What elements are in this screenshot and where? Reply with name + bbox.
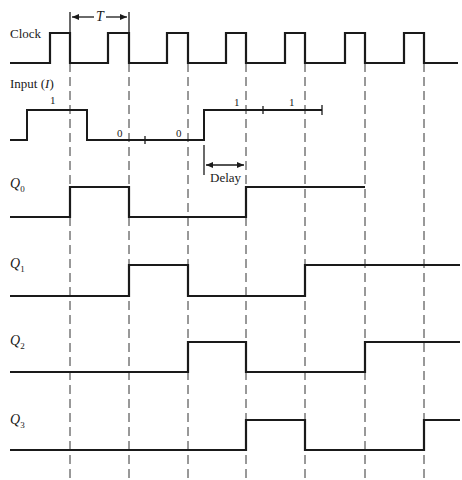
bit-value: 0 <box>117 127 123 139</box>
bit-value: 1 <box>50 94 56 106</box>
clock-edge-dashed-lines <box>70 63 424 478</box>
clock-label: Clock <box>10 26 42 41</box>
bit-value: 1 <box>234 96 240 108</box>
delay-label: Delay <box>210 170 242 185</box>
bit-value: 0 <box>176 127 182 139</box>
arrowhead-right-icon <box>237 162 244 168</box>
output-label: Q2 <box>10 333 25 351</box>
timing-diagram: Clock T Input (I) 10011 Delay Q0Q1Q2Q3 <box>0 0 462 480</box>
output-label: Q0 <box>10 176 25 194</box>
arrowhead-right-icon <box>120 14 127 20</box>
output-q3: Q3 <box>10 412 460 450</box>
output-q1: Q1 <box>10 256 460 296</box>
period-annotation: T <box>70 9 129 33</box>
input-waveform <box>10 110 322 140</box>
clock-waveform <box>10 33 458 63</box>
period-label: T <box>96 9 105 24</box>
arrowhead-left-icon <box>206 162 213 168</box>
output-label: Q3 <box>10 412 25 430</box>
input-label: Input (I) <box>10 76 54 91</box>
arrowhead-left-icon <box>72 14 79 20</box>
output-waveforms: Q0Q1Q2Q3 <box>10 176 460 450</box>
bit-value: 1 <box>289 96 295 108</box>
output-waveform <box>10 420 460 450</box>
delay-annotation: Delay <box>204 145 244 185</box>
output-waveform <box>10 342 460 372</box>
output-label: Q1 <box>10 256 25 274</box>
output-waveform <box>10 265 460 296</box>
output-q2: Q2 <box>10 333 460 372</box>
